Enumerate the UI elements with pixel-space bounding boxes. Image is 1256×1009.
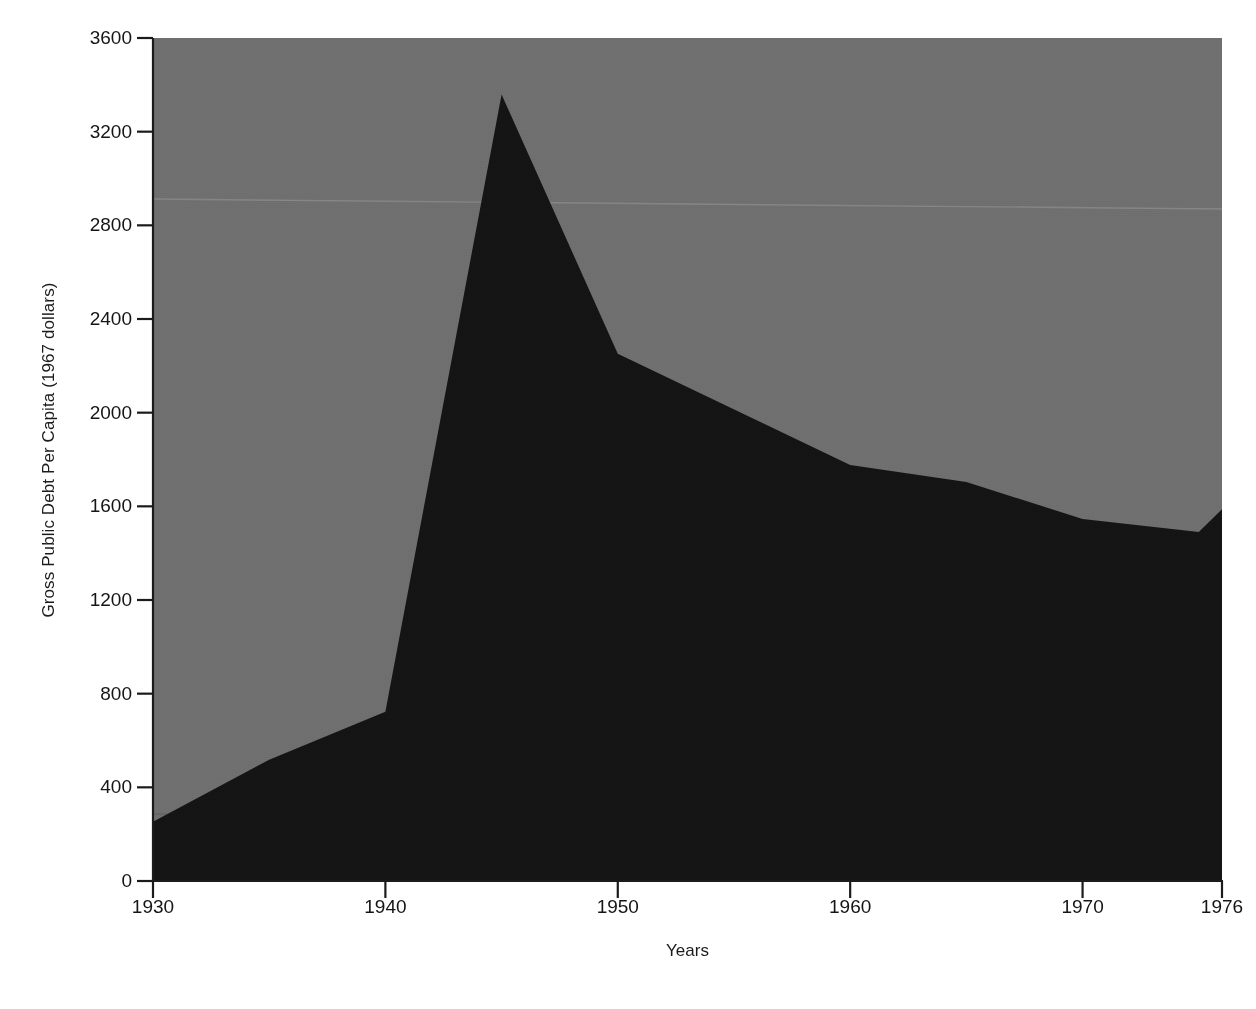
chart-container: 04008001200160020002400280032003600 1930… xyxy=(0,0,1256,1009)
x-axis-title: Years xyxy=(153,941,1222,961)
x-axis-tick-label: 1976 xyxy=(1162,897,1256,917)
x-axis-tick-label: 1960 xyxy=(790,897,910,917)
y-axis-title: Gross Public Debt Per Capita (1967 dolla… xyxy=(36,20,62,880)
x-axis-tick-label-group: 193019401950196019701976 xyxy=(0,0,1256,1009)
x-axis-tick-label: 1930 xyxy=(93,897,213,917)
x-axis-tick-label: 1950 xyxy=(558,897,678,917)
x-axis-tick-label: 1940 xyxy=(325,897,445,917)
x-axis-tick-label: 1970 xyxy=(1023,897,1143,917)
